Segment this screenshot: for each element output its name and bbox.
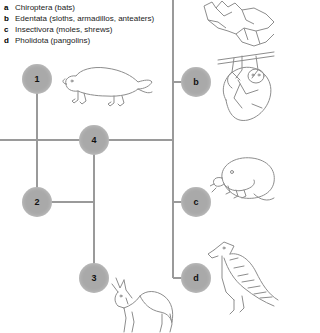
node-2[interactable]: 2 xyxy=(22,187,52,217)
node-1[interactable]: 1 xyxy=(22,64,52,94)
platypus-illustration xyxy=(62,62,154,110)
node-label: d xyxy=(193,273,199,283)
mole-illustration xyxy=(210,150,280,208)
node-label: 4 xyxy=(91,135,96,145)
node-3[interactable]: 3 xyxy=(79,263,109,293)
node-d[interactable]: d xyxy=(181,263,211,293)
node-label: 1 xyxy=(34,74,39,84)
node-label: 3 xyxy=(91,273,96,283)
node-label: b xyxy=(193,77,199,87)
node-b[interactable]: b xyxy=(181,67,211,97)
deer-illustration xyxy=(102,274,182,333)
pangolin-illustration xyxy=(204,236,280,318)
node-label: c xyxy=(193,197,198,207)
sloth-illustration xyxy=(212,50,280,128)
bat-illustration xyxy=(202,0,280,54)
node-c[interactable]: c xyxy=(181,187,211,217)
node-4[interactable]: 4 xyxy=(79,125,109,155)
node-label: 2 xyxy=(34,197,39,207)
